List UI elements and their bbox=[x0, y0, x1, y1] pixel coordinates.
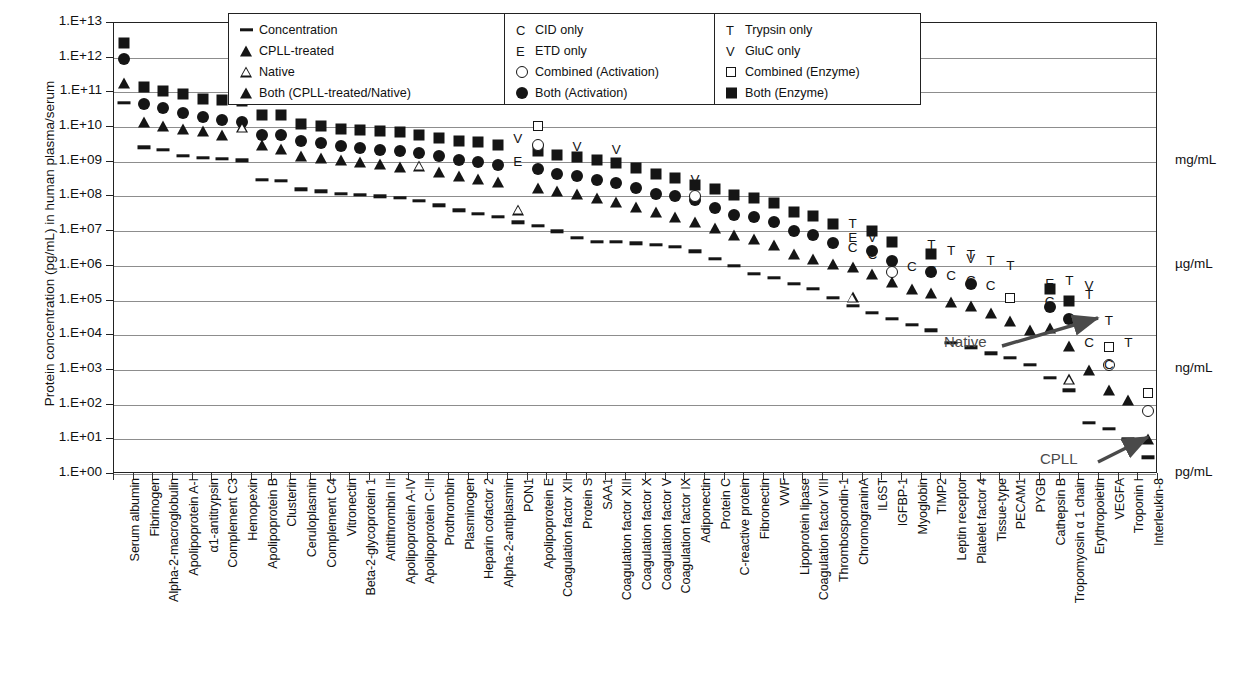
marker-dash-icon bbox=[239, 22, 259, 38]
marker-circle-filled-icon bbox=[515, 85, 535, 101]
legend-item[interactable]: CCID only bbox=[505, 19, 714, 40]
legend-item-label: Trypsin only bbox=[745, 23, 812, 37]
chart-figure: Protein concentration (pg/mL) in human p… bbox=[0, 0, 1246, 679]
legend-item-label: ETD only bbox=[535, 44, 587, 58]
legend-item[interactable]: VGluC only bbox=[715, 40, 920, 61]
legend-item-label: Both (CPLL-treated/Native) bbox=[259, 86, 411, 100]
legend-item[interactable]: Concentration bbox=[229, 19, 504, 40]
legend-item-label: CID only bbox=[535, 23, 583, 37]
legend-item[interactable]: EETD only bbox=[505, 40, 714, 61]
marker-circle-open-icon bbox=[515, 64, 535, 80]
legend-item[interactable]: Both (Activation) bbox=[505, 82, 714, 103]
marker-letter-E-icon: E bbox=[515, 43, 535, 59]
legend-item-label: Both (Activation) bbox=[535, 86, 627, 100]
marker-triangle-filled-icon bbox=[239, 85, 259, 101]
legend-item[interactable]: Combined (Enzyme) bbox=[715, 61, 920, 82]
marker-square-filled-icon bbox=[725, 85, 745, 101]
legend-item-label: CPLL-treated bbox=[259, 44, 334, 58]
marker-letter-V-icon: V bbox=[725, 43, 745, 59]
marker-letter-T-icon: T bbox=[725, 22, 745, 38]
legend-column-col-enzyme: TTrypsin onlyVGluC onlyCombined (Enzyme)… bbox=[715, 14, 920, 104]
legend-item[interactable]: TTrypsin only bbox=[715, 19, 920, 40]
annotation-cpll: CPLL bbox=[1040, 450, 1078, 467]
legend-column-col-activation: CCID onlyEETD onlyCombined (Activation)B… bbox=[505, 14, 715, 104]
marker-triangle-filled-icon bbox=[239, 43, 259, 59]
legend-item[interactable]: CPLL-treated bbox=[229, 40, 504, 61]
legend-item-label: Concentration bbox=[259, 23, 337, 37]
legend-item-label: GluC only bbox=[745, 44, 800, 58]
legend-item-label: Both (Enzyme) bbox=[745, 86, 828, 100]
legend-item[interactable]: Native bbox=[229, 61, 504, 82]
legend-item[interactable]: Both (Enzyme) bbox=[715, 82, 920, 103]
marker-triangle-open-icon bbox=[239, 64, 259, 80]
legend-item-label: Combined (Enzyme) bbox=[745, 65, 860, 79]
legend-item[interactable]: Both (CPLL-treated/Native) bbox=[229, 82, 504, 103]
marker-letter-C-icon: C bbox=[515, 22, 535, 38]
annotation-native: Native bbox=[944, 333, 987, 350]
legend-item-label: Combined (Activation) bbox=[535, 65, 659, 79]
legend-column-col-shapes: ConcentrationCPLL-treatedNativeBoth (CPL… bbox=[229, 14, 505, 104]
legend-item[interactable]: Combined (Activation) bbox=[505, 61, 714, 82]
legend-item-label: Native bbox=[259, 65, 295, 79]
chart-legend: ConcentrationCPLL-treatedNativeBoth (CPL… bbox=[228, 13, 921, 105]
marker-square-open-icon bbox=[725, 64, 745, 80]
